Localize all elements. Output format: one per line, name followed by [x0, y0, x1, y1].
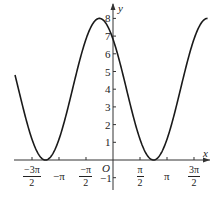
y-axis-label: y — [118, 3, 123, 14]
axes — [14, 3, 210, 190]
y-tick-label: −1 — [100, 173, 112, 184]
y-axis-arrow-icon — [111, 3, 116, 10]
y-tick-label: 4 — [105, 84, 111, 95]
x-tick-label: π — [164, 171, 170, 182]
x-tick-label: −3π2 — [23, 165, 41, 188]
x-tick-label: π2 — [137, 165, 144, 188]
y-tick-label: 8 — [105, 13, 111, 24]
x-tick-label: −π2 — [79, 165, 92, 188]
x-axis-label: x — [203, 148, 208, 159]
x-tick-label: 3π2 — [188, 165, 200, 188]
y-tick-label: 5 — [105, 67, 111, 78]
y-tick-label: 7 — [105, 31, 111, 42]
y-tick-label: 6 — [105, 49, 111, 60]
function-curve — [15, 18, 208, 160]
x-tick-label: −π — [53, 171, 65, 182]
y-tick-label: 3 — [105, 102, 111, 113]
y-tick-label: 2 — [105, 120, 111, 131]
y-tick-label: 1 — [105, 137, 111, 148]
